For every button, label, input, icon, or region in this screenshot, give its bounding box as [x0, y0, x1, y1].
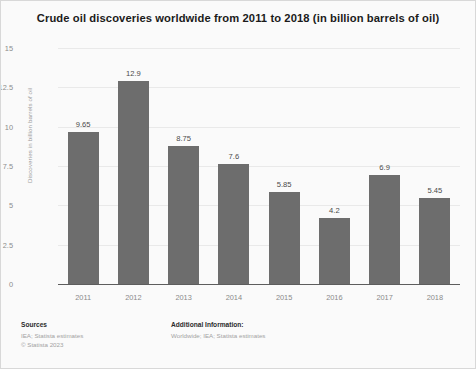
bar[interactable]	[369, 175, 400, 284]
bar-value-label: 5.85	[269, 180, 300, 189]
footer: Sources IEA; Statista estimates© Statist…	[21, 321, 461, 361]
y-axis-tick-label: 15	[0, 44, 13, 53]
additional-information-line: Worldwide; IEA; Statista estimates	[171, 331, 265, 341]
bar[interactable]	[319, 218, 350, 284]
x-axis-tick-label: 2016	[309, 293, 359, 302]
page-title: Crude oil discoveries worldwide from 201…	[1, 12, 475, 24]
bar[interactable]	[118, 81, 149, 284]
bar-value-label: 5.45	[419, 186, 450, 195]
bar[interactable]	[269, 192, 300, 284]
x-axis-tick-label: 2011	[58, 293, 108, 302]
sources-line: IEA; Statista estimates	[21, 331, 83, 341]
additional-information-block: Additional Information: Worldwide; IEA; …	[171, 321, 265, 340]
y-axis-tick-label: 5	[0, 201, 13, 210]
y-axis-title: Discoveries in billion barrels of oil	[26, 88, 33, 183]
bar-slot: 9.65	[68, 48, 99, 284]
bar-slot: 8.75	[168, 48, 199, 284]
chart-figure: Crude oil discoveries worldwide from 201…	[0, 0, 476, 369]
bar-slot: 6.9	[369, 48, 400, 284]
bar-slot: 12.9	[118, 48, 149, 284]
bar-slot: 5.85	[269, 48, 300, 284]
y-axis-tick-label: 7.5	[0, 162, 13, 171]
bar[interactable]	[168, 146, 199, 284]
sources-block: Sources IEA; Statista estimates© Statist…	[21, 321, 83, 350]
y-axis-tick-label: 0	[0, 280, 13, 289]
sources-heading: Sources	[21, 321, 83, 328]
bar-value-label: 8.75	[168, 134, 199, 143]
y-axis-tick-label: 12.5	[0, 83, 13, 92]
x-axis-tick-label: 2015	[259, 293, 309, 302]
additional-information-lines: Worldwide; IEA; Statista estimates	[171, 331, 265, 341]
additional-information-heading: Additional Information:	[171, 321, 265, 328]
x-axis-tick-label: 2012	[108, 293, 158, 302]
plot-area: 9.6512.98.757.65.854.26.95.45	[58, 48, 460, 284]
bar-value-label: 4.2	[319, 206, 350, 215]
bar-value-label: 12.9	[118, 69, 149, 78]
bar-slot: 4.2	[319, 48, 350, 284]
y-axis-tick-label: 10	[0, 122, 13, 131]
bar-value-label: 6.9	[369, 163, 400, 172]
x-axis-tick-label: 2017	[360, 293, 410, 302]
bar-slot: 5.45	[419, 48, 450, 284]
bar-value-label: 7.6	[218, 152, 249, 161]
sources-line: © Statista 2023	[21, 340, 83, 350]
sources-lines: IEA; Statista estimates© Statista 2023	[21, 331, 83, 350]
bar[interactable]	[419, 198, 450, 284]
x-axis-line	[58, 284, 460, 285]
x-axis-tick-label: 2013	[159, 293, 209, 302]
bar-value-label: 9.65	[68, 120, 99, 129]
bar-slot: 7.6	[218, 48, 249, 284]
y-axis-tick-label: 2.5	[0, 240, 13, 249]
x-axis-tick-label: 2014	[209, 293, 259, 302]
x-axis-tick-label: 2018	[410, 293, 460, 302]
bar[interactable]	[68, 132, 99, 284]
bar[interactable]	[218, 164, 249, 284]
